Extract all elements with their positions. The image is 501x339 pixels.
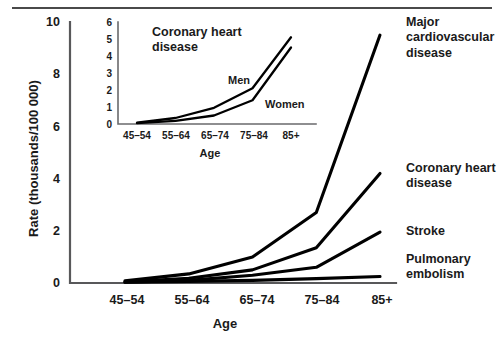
x-axis-title: Age (190, 317, 260, 330)
inset-y-tick-2: 2 (96, 86, 112, 96)
x-tick-45-54: 45–54 (97, 294, 157, 307)
y-tick-0: 0 (30, 277, 60, 290)
inset-y-tick-1: 1 (96, 103, 112, 113)
inset-x-axis-title: Age (186, 148, 234, 159)
series-line-coronary-heart-disease (125, 173, 380, 281)
x-tick-85-plus: 85+ (352, 294, 412, 307)
inset-series-label-women: Women (265, 99, 305, 110)
inset-y-tick-3: 3 (96, 69, 112, 79)
inset-y-tick-5: 5 (96, 35, 112, 45)
inset-series-label-men: Men (228, 75, 250, 86)
x-tick-75-84: 75–84 (292, 294, 352, 307)
figure-container: 10 8 6 4 2 0 Rate (thousands/100 000) 45… (0, 0, 501, 339)
series-label-pulmonary-embolism: Pulmonary embolism (406, 252, 471, 283)
x-tick-65-74: 65–74 (227, 294, 287, 307)
series-label-major-cardiovascular-disease: Major cardiovascular disease (406, 15, 494, 61)
series-label-stroke: Stroke (406, 224, 445, 239)
x-tick-55-64: 55–64 (162, 294, 222, 307)
inset-y-tick-4: 4 (96, 52, 112, 62)
series-label-coronary-heart-disease: Coronary heart disease (406, 161, 496, 192)
inset-title: Coronary heart disease (152, 25, 242, 56)
inset-y-tick-6: 6 (96, 18, 112, 28)
y-tick-10: 10 (30, 16, 60, 29)
y-axis-title: Rate (thousands/100 000) (27, 64, 40, 254)
inset-x-tick-85-plus: 85+ (267, 131, 315, 141)
inset-y-tick-0: 0 (96, 120, 112, 130)
